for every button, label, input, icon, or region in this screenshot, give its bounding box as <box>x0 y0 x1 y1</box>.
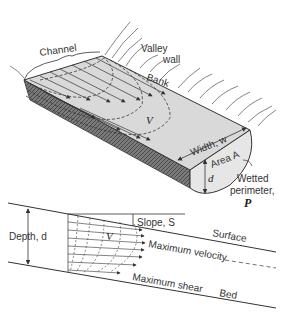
valley-label: Valley <box>141 43 168 54</box>
slope-label: Slope, S <box>137 217 175 228</box>
bed-line <box>8 262 276 308</box>
perimeter-symbol: P <box>244 196 252 210</box>
stream-channel-diagram: Channel Valley wall Bank V Width, w Area… <box>0 0 288 315</box>
depth-label-top: d <box>208 172 214 184</box>
max-velocity-dashed <box>225 260 276 268</box>
perimeter-label: perimeter, <box>230 185 274 196</box>
max-velocity-label: Maximum velocity <box>148 238 228 263</box>
wetted-label: Wetted <box>237 173 269 184</box>
velocity-label-bottom: V <box>106 230 114 242</box>
depth-label: Depth, d <box>9 231 47 242</box>
max-shear-label: Maximum shear <box>132 271 205 294</box>
wall-label: wall <box>162 54 180 65</box>
